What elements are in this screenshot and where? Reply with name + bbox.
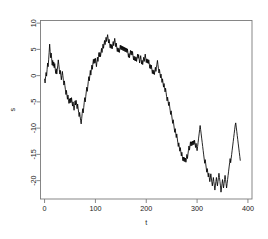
plot-box xyxy=(41,21,253,200)
x-tick-label: 400 xyxy=(242,204,254,213)
x-tick-label: 0 xyxy=(43,204,47,213)
y-tick-label: 5 xyxy=(29,47,38,51)
x-tick-label: 300 xyxy=(191,204,203,213)
y-tick-label: -5 xyxy=(29,99,38,105)
y-axis-title: s xyxy=(8,108,17,112)
axis-labels-group: 01002003004001050-5-10-15-20ts xyxy=(8,19,254,227)
y-tick-label: -15 xyxy=(29,149,38,159)
series-line-s xyxy=(45,35,241,193)
y-tick-label: 10 xyxy=(29,19,38,27)
line-chart: 01002003004001050-5-10-15-20ts xyxy=(0,0,268,239)
data-series-group xyxy=(45,35,241,193)
y-tick-label: 0 xyxy=(29,74,38,78)
x-axis-title: t xyxy=(145,218,147,227)
plot-box-rect xyxy=(41,21,253,200)
y-tick-label: -10 xyxy=(29,123,38,133)
y-tick-label: -20 xyxy=(29,175,38,185)
x-tick-label: 200 xyxy=(140,204,152,213)
chart-container: 01002003004001050-5-10-15-20ts xyxy=(0,0,268,239)
x-tick-label: 100 xyxy=(89,204,101,213)
axis-ticks-group xyxy=(37,23,248,203)
